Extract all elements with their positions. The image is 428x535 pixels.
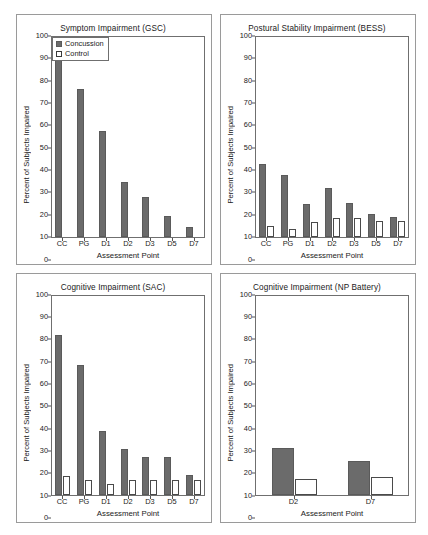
y-tick-label: 100 — [240, 291, 252, 298]
bar-concussion — [390, 217, 397, 237]
bar-series-container — [52, 296, 204, 496]
plot-wrap: CCPGD1D2D3D5D7 Assessment Point — [255, 36, 409, 260]
bar-group — [256, 37, 278, 237]
bar-control — [371, 477, 393, 495]
y-tick-label: 50 — [40, 403, 48, 410]
bar-concussion — [77, 365, 84, 495]
bar-control — [194, 480, 201, 495]
x-tick-label: CC — [51, 238, 73, 250]
bar-concussion — [77, 89, 84, 237]
y-tick-label: 20 — [244, 211, 252, 218]
chart-panel-np-battery: Cognitive Impairment (NP Battery) Percen… — [220, 273, 416, 524]
bar-group — [386, 37, 408, 237]
y-tick-label: 90 — [244, 313, 252, 320]
bar-group — [52, 296, 74, 496]
chart-panel-sac: Cognitive Impairment (SAC) Percent of Su… — [16, 273, 212, 524]
bar-concussion — [55, 335, 62, 495]
y-tick-label: 70 — [244, 99, 252, 106]
bar-control — [85, 480, 92, 495]
x-axis-ticks: CCPGD1D2D3D5D7 — [255, 238, 409, 250]
y-tick-label: 10 — [244, 492, 252, 499]
y-axis-ticks: 0102030405060708090100 — [236, 295, 255, 519]
plot-wrap: D2D7 Assessment Point — [255, 295, 409, 519]
bar-group — [139, 296, 161, 496]
chart-panel-bess: Postural Stability Impairment (BESS) Per… — [220, 14, 416, 265]
plot-area — [255, 295, 409, 497]
bar-concussion — [303, 204, 310, 237]
bar-group — [365, 37, 387, 237]
chart-body: Percent of Subjects Impaired 01020304050… — [225, 295, 409, 519]
x-axis-ticks: CCPGD1D2D3D5D7 — [51, 496, 205, 508]
bar-control — [172, 480, 179, 495]
y-tick-mark — [48, 518, 51, 519]
y-tick-label: 40 — [244, 166, 252, 173]
bar-group — [139, 37, 161, 237]
x-tick-label: D3 — [139, 496, 161, 508]
y-tick-label: 90 — [40, 313, 48, 320]
y-tick-label: 50 — [244, 144, 252, 151]
y-tick-label: 20 — [40, 470, 48, 477]
plot-wrap: CCPGD1D2D3D5D7 Assessment Point — [51, 295, 205, 519]
x-tick-label: PG — [73, 238, 95, 250]
chart-title: Symptom Impairment (GSC) — [21, 20, 205, 36]
y-tick-label: 60 — [244, 122, 252, 129]
bar-concussion — [55, 60, 62, 237]
legend-label-control: Control — [65, 50, 89, 59]
bar-series-container — [256, 296, 408, 496]
bar-concussion — [142, 197, 149, 237]
x-tick-label: D1 — [95, 496, 117, 508]
y-tick-label: 70 — [40, 358, 48, 365]
bar-group — [74, 37, 96, 237]
plot-area — [51, 295, 205, 497]
bar-group — [95, 37, 117, 237]
x-tick-label: D2 — [117, 238, 139, 250]
bar-control — [150, 480, 157, 495]
bar-concussion — [259, 164, 266, 237]
x-tick-label: D2 — [255, 496, 332, 508]
y-tick-label: 40 — [244, 425, 252, 432]
chart-title: Postural Stability Impairment (BESS) — [225, 20, 409, 36]
y-axis-ticks: 0102030405060708090100 — [32, 36, 51, 260]
y-tick-label: 70 — [40, 99, 48, 106]
bar-concussion — [281, 175, 288, 237]
y-tick-label: 80 — [244, 335, 252, 342]
bar-control — [398, 221, 405, 237]
bar-concussion — [346, 203, 353, 237]
y-tick-label: 80 — [244, 77, 252, 84]
bar-concussion — [368, 214, 375, 237]
plot-area — [255, 36, 409, 238]
bar-concussion — [272, 448, 294, 495]
chart-panel-gsc: Symptom Impairment (GSC) Percent of Subj… — [16, 14, 212, 265]
bar-concussion — [164, 216, 171, 237]
y-tick-label: 80 — [40, 335, 48, 342]
y-tick-label: 20 — [244, 470, 252, 477]
y-tick-label: 30 — [244, 447, 252, 454]
y-tick-label: 90 — [244, 55, 252, 62]
x-axis-label: Assessment Point — [255, 250, 409, 260]
y-tick-label: 100 — [36, 291, 48, 298]
y-tick-label: 80 — [40, 77, 48, 84]
bar-group — [256, 296, 332, 496]
bar-control — [63, 476, 70, 495]
bar-concussion — [121, 449, 128, 495]
x-tick-label: D3 — [343, 238, 365, 250]
bar-concussion — [348, 461, 370, 495]
y-axis-label: Percent of Subjects Impaired — [225, 92, 236, 204]
bar-group — [117, 37, 139, 237]
y-axis-ticks: 0102030405060708090100 — [32, 295, 51, 519]
chart-body: Percent of Subjects Impaired 01020304050… — [21, 36, 205, 260]
bar-series-container — [52, 37, 204, 237]
y-tick-mark — [252, 259, 255, 260]
x-tick-label: D5 — [161, 496, 183, 508]
bar-group — [332, 296, 408, 496]
chart-title: Cognitive Impairment (SAC) — [21, 279, 205, 295]
bar-control — [267, 226, 274, 237]
x-tick-label: D7 — [183, 238, 205, 250]
x-axis-ticks: CCPGD1D2D3D5D7 — [51, 238, 205, 250]
bar-concussion — [99, 131, 106, 237]
bar-group — [95, 296, 117, 496]
bar-group — [117, 296, 139, 496]
y-tick-label: 50 — [244, 403, 252, 410]
bar-concussion — [325, 188, 332, 237]
chart-title: Cognitive Impairment (NP Battery) — [225, 279, 409, 295]
